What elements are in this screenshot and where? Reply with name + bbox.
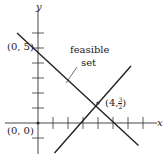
- intersection-point: [96, 101, 99, 104]
- feasible-label: feasible: [70, 45, 109, 55]
- origin-label: (0, 0): [7, 126, 34, 136]
- x-axis-label: x: [157, 118, 163, 128]
- feasible-set-arrow: [66, 67, 77, 83]
- intersection-label: (4,32): [105, 97, 126, 110]
- origin-point: [36, 121, 39, 124]
- y-intercept-label: (0, 5): [7, 42, 34, 52]
- intersection-prefix: (4,: [105, 97, 118, 108]
- intersection-suffix: ): [122, 97, 126, 108]
- y-axis-label: y: [36, 2, 42, 12]
- set-label: set: [81, 58, 96, 68]
